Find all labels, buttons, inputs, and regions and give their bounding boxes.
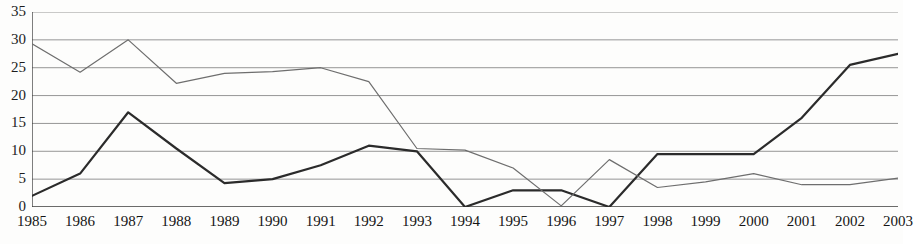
y-axis-labels: 05101520253035 — [0, 0, 26, 244]
plot-area — [32, 12, 898, 207]
y-axis-label: 5 — [0, 171, 26, 186]
y-axis-label: 30 — [0, 32, 26, 47]
plot-svg — [32, 12, 898, 207]
y-axis-label: 20 — [0, 88, 26, 103]
y-axis-label: 15 — [0, 115, 26, 130]
y-axis-label: 25 — [0, 60, 26, 75]
series-line-series-2 — [32, 40, 898, 206]
series-line-series-1 — [32, 54, 898, 207]
x-axis-labels: 1985198619871988198919901991199219931994… — [32, 212, 898, 242]
y-axis-label: 35 — [0, 4, 26, 19]
x-axis-label-2003: 2003 — [868, 212, 918, 230]
y-axis-label: 10 — [0, 143, 26, 158]
